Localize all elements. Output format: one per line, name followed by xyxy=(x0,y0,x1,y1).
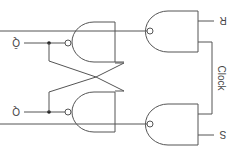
label-q-bar: Q̄ xyxy=(12,37,20,49)
label-s: S xyxy=(219,129,226,140)
label-clock: Clock xyxy=(216,65,227,91)
latch-diagram: Q̄ Q R S Clock xyxy=(0,0,248,155)
label-r: R xyxy=(219,15,226,26)
nand-gate-bottom-right xyxy=(145,104,198,145)
nand-gate-top-right xyxy=(145,11,198,52)
nand-gate-top-left xyxy=(65,22,115,62)
label-q: Q xyxy=(12,106,20,117)
nand-gate-bottom-left xyxy=(65,92,115,132)
